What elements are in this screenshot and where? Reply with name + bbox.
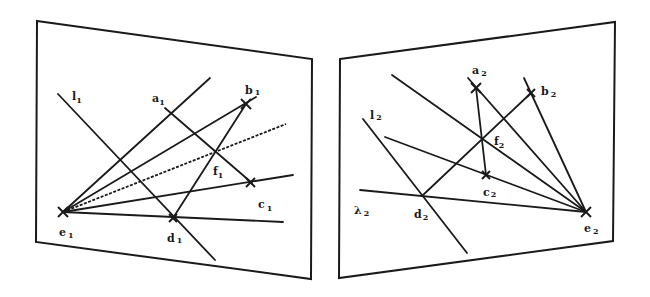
right-image-plane: a2 b2 l2 f2 c2 λ2 d2 e2: [339, 22, 615, 278]
epipolar-diagram: l1 a1 b1 f1 c1 e1 d1: [0, 0, 650, 297]
right-plane-frame: [339, 22, 615, 278]
left-image-plane: l1 a1 b1 f1 c1 e1 d1: [36, 21, 312, 279]
